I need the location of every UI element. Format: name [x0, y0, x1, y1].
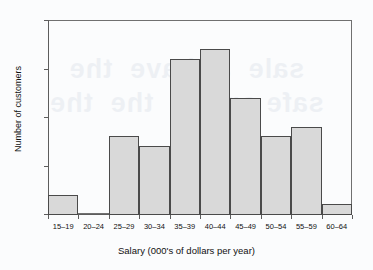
x-axis-tick [352, 215, 353, 219]
histogram-bar [322, 204, 352, 215]
x-axis-tick-label: 60–64 [317, 222, 357, 231]
x-axis-tick [109, 215, 110, 219]
x-axis-tick [48, 215, 49, 219]
y-axis-tick [44, 166, 48, 167]
x-axis-title: Salary (000's of dollars per year) [0, 245, 373, 256]
y-axis-line [48, 20, 49, 214]
x-axis-tick [78, 215, 79, 219]
histogram-bar [48, 195, 78, 215]
y-axis-tick [44, 117, 48, 118]
x-axis-tick [261, 215, 262, 219]
histogram-bar [170, 59, 200, 215]
y-axis-tick [44, 69, 48, 70]
y-axis-tick [44, 20, 48, 21]
histogram-bar [200, 49, 230, 215]
x-axis-tick [322, 215, 323, 219]
histogram-bar [261, 136, 291, 215]
x-axis-tick [170, 215, 171, 219]
histogram-bar [230, 98, 260, 215]
y-axis-title: Number of customers [13, 39, 23, 179]
x-axis-tick [139, 215, 140, 219]
histogram-chart: 05101520 15–1920–2425–2930–3435–3940–444… [0, 0, 373, 270]
x-axis-tick [200, 215, 201, 219]
x-axis-tick [230, 215, 231, 219]
histogram-bar [139, 146, 169, 215]
histogram-bar [291, 127, 321, 215]
histogram-bar [109, 136, 139, 215]
x-axis-tick [291, 215, 292, 219]
